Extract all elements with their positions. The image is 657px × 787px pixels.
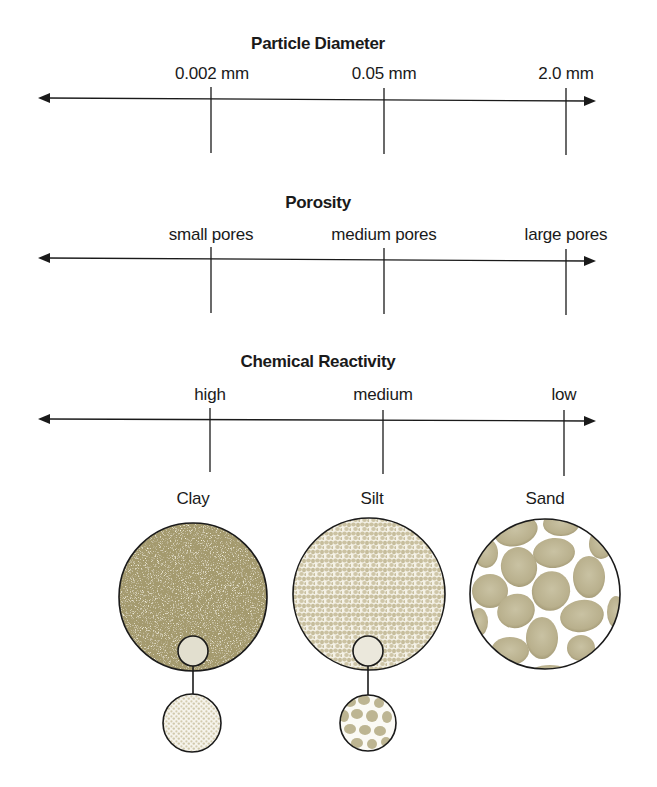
sand-sample — [470, 511, 625, 685]
clay-sample — [119, 523, 267, 760]
diagram-graphics — [0, 0, 657, 787]
silt-sample — [293, 518, 445, 755]
